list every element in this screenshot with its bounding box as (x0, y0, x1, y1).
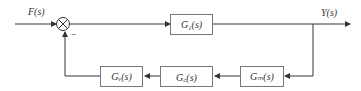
block-gv: Gᵥ(s) (100, 66, 143, 87)
input-label: F(s) (28, 7, 45, 17)
feedback-sign: − (71, 30, 77, 40)
block-gm: Gₘ(s) (240, 66, 284, 87)
block-diagram: F(s) Y(s) − G₁(s) Gₘ(s) G꜀(s) Gᵥ(s) (0, 0, 361, 91)
summing-junction-icon (57, 18, 70, 31)
block-gc: G꜀(s) (160, 66, 213, 87)
block-g1: G₁(s) (170, 14, 213, 35)
output-label: Y(s) (321, 8, 337, 18)
